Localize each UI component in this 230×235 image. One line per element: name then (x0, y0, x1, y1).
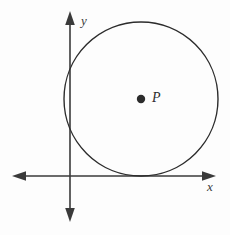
y-axis-down-arrow-icon (65, 208, 75, 222)
point-p-label: P (151, 90, 161, 105)
x-axis-label: x (206, 179, 213, 194)
x-axis-left-arrow-icon (12, 171, 26, 181)
point-p-dot (137, 95, 145, 103)
coordinate-plane-diagram: P y x (0, 0, 230, 235)
y-axis-label: y (79, 13, 87, 28)
y-axis-up-arrow-icon (65, 11, 75, 25)
figure-canvas: P y x (0, 0, 230, 235)
